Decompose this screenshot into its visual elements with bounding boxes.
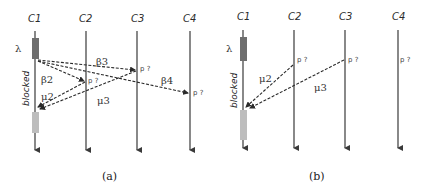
- process-label-c1: C1: [237, 11, 250, 22]
- lambda-label: λ: [226, 43, 233, 54]
- message-label-mu2: μ2: [259, 73, 272, 84]
- blocked-label: blocked: [21, 71, 31, 106]
- sequence-diagram-figure: C1 C2 C3 C4 λ blocked β3 β2 β4 μ2 μ3 p ?…: [0, 0, 424, 195]
- process-label-c4: C4: [392, 11, 405, 22]
- process-label-c4: C4: [183, 13, 196, 24]
- message-label-beta2: β2: [41, 74, 53, 85]
- message-label-beta3: β3: [96, 56, 108, 67]
- process-label-c2: C2: [79, 13, 92, 24]
- lambda-label: λ: [15, 43, 22, 54]
- message-arrow-mu2: [246, 65, 293, 107]
- message-label-mu3: μ3: [314, 82, 327, 93]
- active-execution-box: [32, 38, 39, 59]
- process-label-c3: C3: [339, 11, 352, 22]
- pending-label-c3: p ?: [348, 56, 359, 64]
- process-label-c2: C2: [288, 11, 301, 22]
- process-label-c3: C3: [131, 13, 144, 24]
- blocked-label: blocked: [229, 73, 239, 108]
- process-label-c1: C1: [28, 13, 41, 24]
- pending-label-c4: p ?: [400, 56, 411, 64]
- message-arrow-mu3: [250, 60, 344, 108]
- resumed-execution-box: [240, 110, 247, 140]
- message-label-mu3: μ3: [97, 95, 110, 106]
- pending-label-c2: p ?: [88, 77, 99, 85]
- caption-b: (b): [309, 170, 325, 183]
- caption-a: (a): [102, 170, 117, 183]
- pending-label-c4: p ?: [193, 89, 204, 97]
- panel-a: C1 C2 C3 C4 λ blocked β3 β2 β4 μ2 μ3 p ?…: [15, 13, 204, 183]
- panel-b: C1 C2 C3 C4 λ blocked μ2 μ3 p ? p ? p ? …: [226, 11, 411, 183]
- pending-label-c2: p ?: [297, 56, 308, 64]
- message-label-beta4: β4: [161, 75, 173, 86]
- message-label-mu2: μ2: [41, 91, 54, 102]
- active-execution-box: [240, 37, 247, 61]
- pending-label-c3: p ?: [140, 65, 151, 73]
- resumed-execution-box: [32, 112, 39, 133]
